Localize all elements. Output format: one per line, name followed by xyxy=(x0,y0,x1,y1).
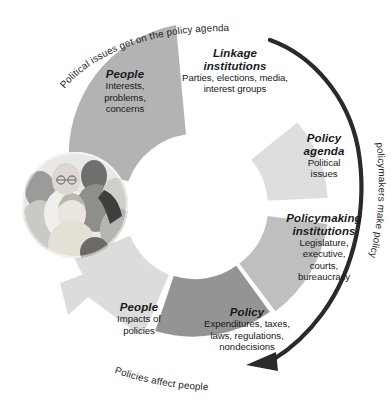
label-people-bottom-line2: policies xyxy=(98,326,180,337)
label-policy: Policy Expenditures, taxes, laws, regula… xyxy=(184,306,310,353)
label-people-bottom: People Impacts of policies xyxy=(98,301,180,336)
label-policymaking-title-line1: Policymaking xyxy=(272,212,376,225)
label-policymaking-title-line2: institutions xyxy=(272,225,376,238)
label-people-top: People Interests, problems, concerns xyxy=(86,68,164,115)
label-linkage-title-line2: institutions xyxy=(166,60,304,73)
label-people-bottom-line1: Impacts of xyxy=(98,314,180,325)
caption-policies-affect-people: Policies affect people xyxy=(114,364,210,392)
label-policymaking-line2: executive, xyxy=(272,249,376,260)
label-policymaking-line1: Legislature, xyxy=(272,238,376,249)
label-policy-line1: Expenditures, taxes, xyxy=(184,319,310,330)
label-policy-line2: laws, regulations, xyxy=(184,331,310,342)
label-linkage-line2: interest groups xyxy=(166,84,304,95)
label-policy-agenda-title-line1: Policy xyxy=(292,132,356,145)
label-people-top-line2: problems, xyxy=(86,93,164,104)
label-policy-agenda: Policy agenda Political issues xyxy=(292,132,356,180)
label-people-top-title: People xyxy=(86,68,164,81)
label-linkage-institutions: Linkage institutions Parties, elections,… xyxy=(166,47,304,95)
label-people-top-line1: Interests, xyxy=(86,81,164,92)
label-policymaking-line4: bureaucracy xyxy=(272,272,376,283)
label-policy-agenda-line2: issues xyxy=(292,169,356,180)
label-people-bottom-title: People xyxy=(98,301,180,314)
label-linkage-line1: Parties, elections, media, xyxy=(166,73,304,84)
label-policy-title: Policy xyxy=(184,306,310,319)
label-linkage-title-line1: Linkage xyxy=(166,47,304,60)
label-people-top-line3: concerns xyxy=(86,104,164,115)
label-policy-line3: nondecisions xyxy=(184,342,310,353)
label-policy-agenda-line1: Political xyxy=(292,158,356,169)
policymaking-system-diagram: Political issues get on the policy agend… xyxy=(0,0,392,407)
label-policymaking-institutions: Policymaking institutions Legislature, e… xyxy=(272,212,376,283)
label-policymaking-line3: courts, xyxy=(272,261,376,272)
label-policy-agenda-title-line2: agenda xyxy=(292,145,356,158)
